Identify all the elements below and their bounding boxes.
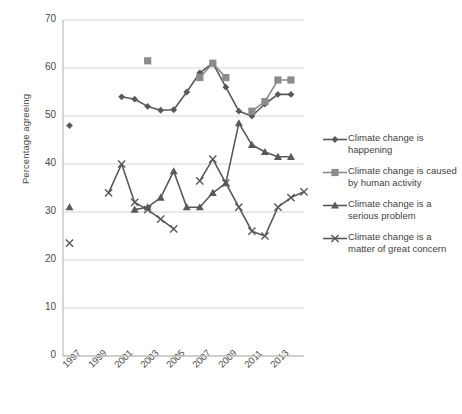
- series-3: [66, 156, 308, 247]
- data-point-cross: [66, 240, 73, 247]
- data-point-diamond: [222, 84, 229, 91]
- series-line: [135, 123, 291, 209]
- data-point-triangle: [235, 119, 243, 126]
- data-point-cross: [287, 194, 294, 201]
- legend-label-line2: happening: [348, 144, 424, 156]
- data-point-diamond: [332, 136, 339, 143]
- legend-item[interactable]: Climate change is aserious problem: [322, 198, 462, 222]
- data-point-cross: [196, 177, 203, 184]
- data-point-square: [144, 57, 151, 64]
- legend-marker-cross-icon: [322, 232, 348, 245]
- data-point-cross: [105, 189, 112, 196]
- data-point-cross: [235, 204, 242, 211]
- data-point-diamond: [66, 122, 73, 129]
- data-point-cross: [131, 199, 138, 206]
- data-point-square: [222, 74, 229, 81]
- series-line: [252, 80, 291, 111]
- legend-marker-diamond-icon: [322, 133, 348, 146]
- data-point-cross: [274, 204, 281, 211]
- data-point-cross: [209, 156, 216, 163]
- legend-label: Climate change is aserious problem: [348, 198, 431, 222]
- chart-container: Percentage agreeing 010203040506070 1997…: [0, 0, 462, 414]
- data-point-diamond: [288, 91, 295, 98]
- series-0: [66, 60, 294, 129]
- data-point-square: [274, 76, 281, 83]
- legend-label: Climate change is causedby human activit…: [348, 165, 457, 189]
- data-point-square: [261, 98, 268, 105]
- legend-label: Climate change is amatter of great conce…: [348, 231, 446, 255]
- data-point-cross: [170, 225, 177, 232]
- data-point-square: [287, 76, 294, 83]
- data-point-triangle: [261, 148, 269, 155]
- data-point-triangle: [66, 203, 74, 210]
- chart-legend: Climate change ishappeningClimate change…: [322, 132, 462, 264]
- data-point-cross: [157, 216, 164, 223]
- data-point-diamond: [118, 93, 125, 100]
- data-point-diamond: [131, 96, 138, 103]
- legend-item[interactable]: Climate change is causedby human activit…: [322, 165, 462, 189]
- data-point-square: [248, 108, 255, 115]
- data-point-cross: [261, 232, 268, 239]
- legend-label-line1: Climate change is a: [348, 231, 446, 243]
- legend-label-line1: Climate change is: [348, 132, 424, 144]
- legend-label-line1: Climate change is a: [348, 198, 431, 210]
- legend-item[interactable]: Climate change ishappening: [322, 132, 462, 156]
- legend-label-line1: Climate change is caused: [348, 165, 457, 177]
- data-point-square: [331, 169, 338, 176]
- legend-label-line2: by human activity: [348, 177, 457, 189]
- series-line: [109, 164, 174, 229]
- data-point-triangle: [157, 194, 165, 201]
- data-point-diamond: [157, 107, 164, 114]
- series-2: [66, 119, 295, 213]
- data-point-triangle: [170, 167, 178, 174]
- data-point-cross: [248, 228, 255, 235]
- legend-label-line2: matter of great concern: [348, 243, 446, 255]
- legend-marker-triangle-icon: [322, 199, 348, 212]
- legend-item[interactable]: Climate change is amatter of great conce…: [322, 231, 462, 255]
- data-point-cross: [300, 188, 307, 195]
- data-point-triangle: [248, 141, 256, 148]
- data-point-diamond: [235, 108, 242, 115]
- legend-label: Climate change ishappening: [348, 132, 424, 156]
- data-point-diamond: [144, 103, 151, 110]
- data-point-square: [196, 74, 203, 81]
- data-point-square: [209, 60, 216, 67]
- series-line: [200, 159, 304, 236]
- legend-label-line2: serious problem: [348, 210, 431, 222]
- legend-marker-square-icon: [322, 166, 348, 179]
- series-1: [144, 57, 294, 115]
